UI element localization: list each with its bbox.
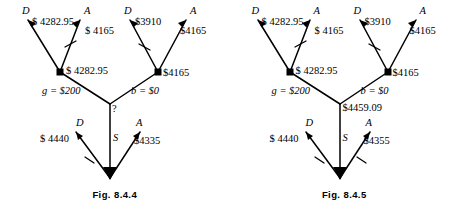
chance-value-right: $4165 (393, 68, 419, 79)
edge-left-D (28, 20, 60, 72)
terminal-value-left-D: $ 4282.95 (32, 17, 74, 28)
terminal-markers (258, 20, 416, 140)
node-left-chance (286, 69, 293, 76)
terminal-value-left-A: $ 4165 (315, 26, 344, 37)
terminal-letter-left-A: A (84, 6, 90, 17)
tick-bottom-A (85, 157, 94, 163)
bottom-value-D: $ 4440 (40, 134, 69, 145)
edge-label-g: g = $200 (272, 86, 311, 97)
tick-bottom-D (357, 157, 366, 163)
edge-label-b: b = $0 (131, 86, 159, 97)
node-right-chance (155, 69, 162, 76)
terminal-value-left-D: $ 4282.95 (262, 17, 304, 28)
terminal-letter-right-A: A (190, 6, 196, 17)
figure-8-4-5: D $ 4282.95 A $ 4165 D $3910 A $4165 $ 4… (230, 0, 459, 213)
bottom-value-D: $ 4440 (270, 134, 299, 145)
figure-8-4-4: D $ 4282.95 A $ 4165 D $3910 A $4165 $ 4… (0, 0, 230, 213)
bottom-letter-D: D (306, 118, 314, 129)
bottom-letter-D: D (76, 118, 84, 129)
terminal-letter-right-D: D (124, 6, 132, 17)
tick-right-D (139, 44, 150, 50)
tick-right-D (369, 44, 380, 50)
terminal-letter-right-A: A (420, 6, 426, 17)
terminal-letter-left-D: D (22, 6, 30, 17)
tick-bottom-A (315, 157, 324, 163)
terminal-value-right-D: $3910 (365, 17, 391, 28)
node-apex (103, 167, 117, 180)
chance-value-left: $ 4282.95 (66, 66, 108, 77)
edge-bottom-D (76, 132, 110, 178)
chance-value-left: $ 4282.95 (296, 66, 338, 77)
bottom-letter-A: A (136, 118, 142, 129)
bottom-letter-S: S (113, 133, 118, 144)
terminal-value-right-A: $4165 (180, 26, 206, 37)
node-apex (333, 167, 347, 180)
terminal-value-right-D: $3910 (135, 17, 161, 28)
terminal-letter-right-D: D (354, 6, 362, 17)
node-right-chance (384, 69, 391, 76)
terminal-value-right-A: $4165 (410, 26, 436, 37)
figure-caption-left: Fig. 8.4.4 (0, 189, 230, 200)
root-value: $4459.09 (343, 103, 382, 114)
figure-pair: D $ 4282.95 A $ 4165 D $3910 A $4165 $ 4… (0, 0, 459, 213)
terminal-letter-left-D: D (252, 6, 260, 17)
terminal-value-left-A: $ 4165 (85, 26, 114, 37)
root-value: ? (112, 104, 117, 115)
edge-bottom-D (306, 132, 340, 178)
edge-label-b: b = $0 (361, 86, 389, 97)
bottom-letter-S: S (343, 133, 348, 144)
edge-label-g: g = $200 (42, 86, 81, 97)
bottom-value-A: $4335 (134, 136, 160, 147)
chance-value-right: $4165 (163, 68, 189, 79)
edge-left-D (258, 20, 290, 72)
terminal-letter-left-A: A (314, 6, 320, 17)
node-left-chance (57, 69, 64, 76)
terminal-markers (28, 20, 186, 140)
bottom-value-A: $4355 (364, 136, 390, 147)
figure-caption-right: Fig. 8.4.5 (230, 189, 459, 200)
bottom-letter-A: A (366, 118, 372, 129)
